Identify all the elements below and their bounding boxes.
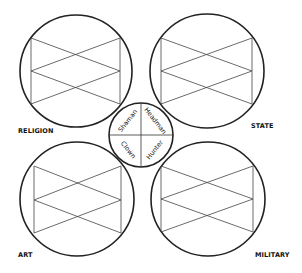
domain-art — [20, 142, 134, 256]
state-crossed-box — [161, 38, 252, 104]
religion-circle — [20, 15, 132, 127]
domain-state — [150, 14, 264, 128]
center-roles-circle: Shaman Headman Clown Hunter — [109, 103, 173, 167]
label-art: ART — [18, 251, 33, 259]
domain-military — [151, 142, 265, 256]
state-circle — [150, 14, 264, 128]
military-crossed-box — [161, 166, 253, 232]
military-circle — [151, 142, 265, 256]
religion-crossed-box — [31, 38, 120, 104]
label-state: STATE — [251, 122, 274, 130]
label-religion: RELIGION — [18, 127, 54, 135]
label-military: MILITARY — [255, 251, 290, 259]
domain-religion — [20, 15, 132, 127]
roles-domains-diagram: Shaman Headman Clown Hunter RELIGION STA… — [0, 0, 302, 273]
art-crossed-box — [34, 166, 121, 233]
